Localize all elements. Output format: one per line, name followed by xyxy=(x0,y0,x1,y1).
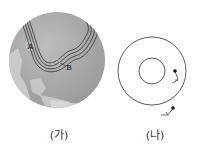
wind-barb-inner xyxy=(172,69,178,83)
caption-na: (나) xyxy=(140,126,170,142)
label-b: B xyxy=(66,63,72,72)
diagram-canvas: A B xyxy=(0,0,201,148)
caption-ga: (가) xyxy=(44,126,74,142)
globe: A B xyxy=(9,6,105,115)
label-a: A xyxy=(27,42,34,51)
wind-barb-outer xyxy=(161,106,175,115)
inner-circle xyxy=(139,58,165,84)
